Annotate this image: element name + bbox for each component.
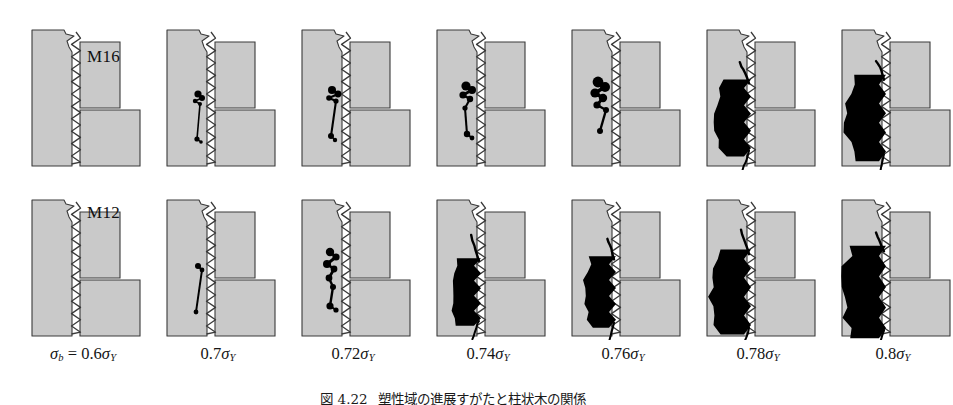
- figure-caption: 図 4.22塑性域の進展すがたと柱状木の関係: [0, 388, 906, 405]
- specimen-panel-m16-0.76Y: [564, 18, 682, 170]
- specimen-panel-m16-0.8Y: [834, 18, 952, 170]
- stress-label-4: 0.76σY: [563, 344, 683, 364]
- specimen-panel-m12-0.78Y: [699, 188, 817, 340]
- specimen-panel-m12-0.76Y: [564, 188, 682, 340]
- specimen-panel-m12-0.72Y: [294, 188, 412, 340]
- specimen-panel-m12-0.74Y: [429, 188, 547, 340]
- stress-label-3: 0.74σY: [428, 344, 548, 364]
- stress-axis: σb = 0.6σY0.7σY0.72σY0.74σY0.76σY0.78σY0…: [0, 344, 906, 374]
- row-label-m12: M12: [87, 203, 120, 223]
- specimen-panel-m16-0.7Y: [159, 18, 277, 170]
- caption-number: 図 4.22: [320, 391, 367, 405]
- specimen-panel-m16-0.78Y: [699, 18, 817, 170]
- specimen-panel-m16-0.72Y: [294, 18, 412, 170]
- stress-label-1: 0.7σY: [158, 344, 278, 364]
- stress-label-2: 0.72σY: [293, 344, 413, 364]
- caption-text: 塑性域の進展すがたと柱状木の関係: [378, 391, 586, 405]
- specimen-panel-m16-0.6Y: [24, 18, 142, 170]
- specimen-panel-m12-0.7Y: [159, 188, 277, 340]
- stress-label-0: σb = 0.6σY: [23, 344, 143, 364]
- row-label-m16: M16: [87, 47, 120, 67]
- panel-grid: [0, 0, 906, 345]
- specimen-panel-m16-0.74Y: [429, 18, 547, 170]
- specimen-panel-m12-0.6Y: [24, 188, 142, 340]
- stress-label-6: 0.8σY: [833, 344, 953, 364]
- stress-label-5: 0.78σY: [698, 344, 818, 364]
- specimen-panel-m12-0.8Y: [834, 188, 952, 340]
